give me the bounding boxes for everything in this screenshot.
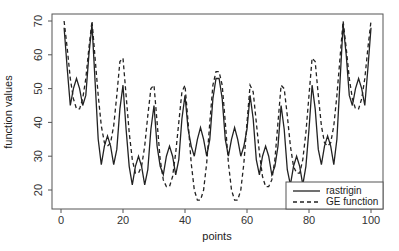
y-tick-label: 20 (32, 184, 44, 196)
x-tick-label: 20 (117, 214, 129, 226)
y-axis: 203040506070 (32, 15, 52, 196)
x-tick-label: 100 (362, 214, 380, 226)
x-tick-label: 80 (303, 214, 315, 226)
y-axis-label: function values (2, 75, 14, 149)
x-axis: 020406080100 (58, 209, 380, 226)
line-chart: 020406080100 203040506070 points functio… (0, 0, 399, 251)
legend-label-rastrigin: rastrigin (326, 185, 362, 196)
x-tick-label: 0 (58, 214, 64, 226)
y-tick-label: 60 (32, 49, 44, 61)
y-tick-label: 40 (32, 116, 44, 128)
y-tick-label: 70 (32, 15, 44, 27)
series-line-rastrigin (64, 24, 371, 185)
y-tick-label: 30 (32, 150, 44, 162)
series-line-ge-function (64, 21, 371, 200)
y-tick-label: 50 (32, 82, 44, 94)
legend-label-ge-function: GE function (326, 196, 378, 207)
series-group (64, 21, 371, 200)
x-tick-label: 40 (179, 214, 191, 226)
legend: rastrigin GE function (286, 182, 383, 209)
plot-frame (52, 14, 383, 209)
x-tick-label: 60 (241, 214, 253, 226)
x-axis-label: points (202, 230, 232, 242)
